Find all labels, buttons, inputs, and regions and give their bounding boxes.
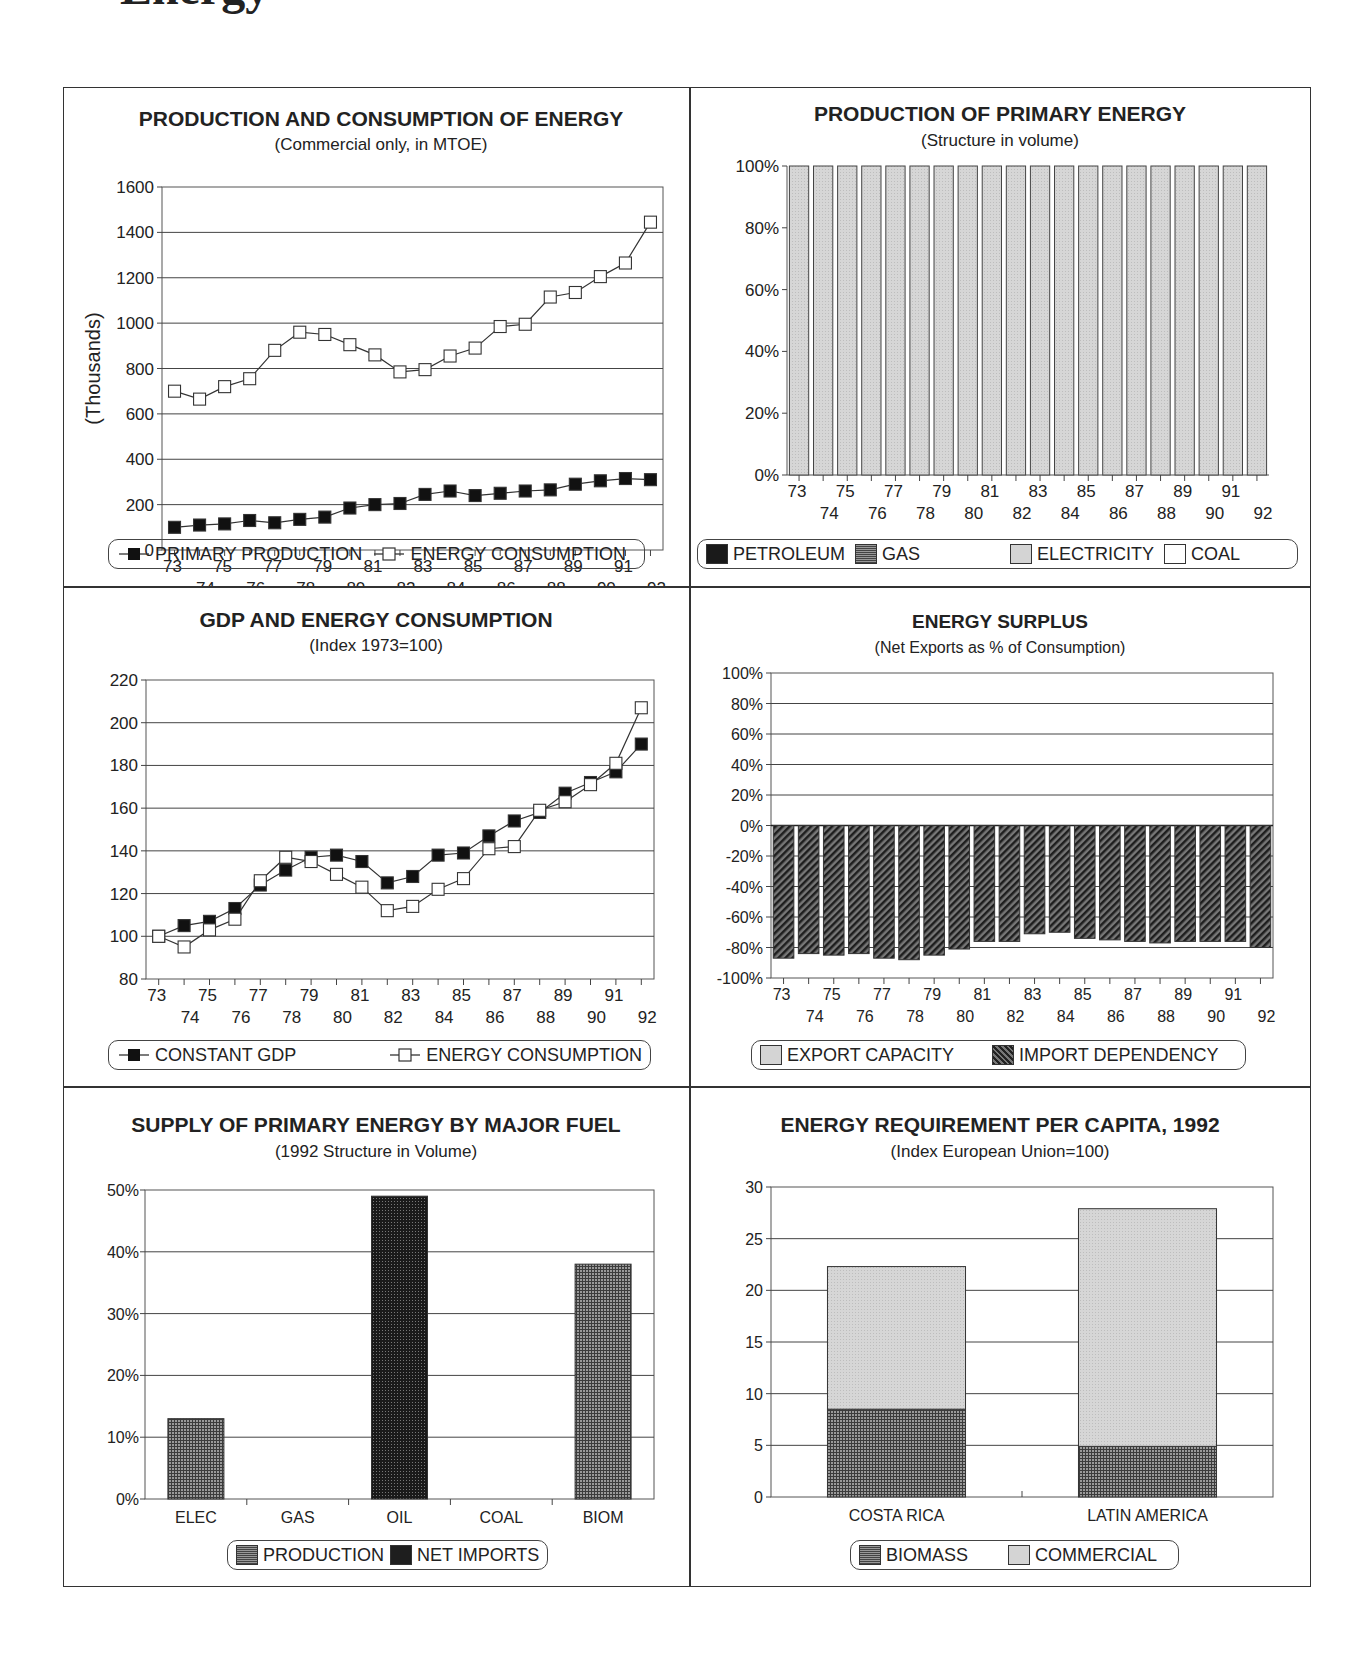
chart-production-structure: PRODUCTION OF PRIMARY ENERGY (Structure …	[689, 87, 1311, 586]
svg-text:74: 74	[196, 579, 215, 586]
svg-text:92: 92	[1253, 504, 1272, 523]
svg-text:75: 75	[823, 986, 841, 1003]
svg-text:87: 87	[1124, 986, 1142, 1003]
svg-text:5: 5	[754, 1437, 763, 1454]
stacked-bar-plot: 0%20%40%60%80%100%7374757677787980818283…	[689, 87, 1311, 586]
svg-text:76: 76	[856, 1008, 874, 1025]
filled-square-marker-icon	[117, 544, 151, 564]
svg-text:160: 160	[110, 799, 138, 818]
chart-production-consumption: PRODUCTION AND CONSUMPTION OF ENERGY (Co…	[63, 87, 689, 586]
svg-text:88: 88	[547, 579, 566, 586]
bar-chart-plot: -100%-80%-60%-40%-20%0%20%40%60%80%100%7…	[689, 586, 1311, 1086]
chart-legend: BIOMASS COMMERCIAL	[850, 1540, 1179, 1570]
svg-text:80: 80	[333, 1008, 352, 1027]
svg-text:20%: 20%	[745, 404, 779, 423]
svg-text:40%: 40%	[107, 1244, 139, 1261]
svg-text:90: 90	[597, 579, 616, 586]
svg-text:COAL: COAL	[480, 1509, 524, 1526]
svg-text:92: 92	[638, 1008, 657, 1027]
svg-text:40%: 40%	[745, 342, 779, 361]
svg-text:10%: 10%	[107, 1429, 139, 1446]
open-square-marker-icon	[372, 544, 406, 564]
legend-item-primary-production: PRIMARY PRODUCTION	[117, 544, 362, 565]
svg-text:84: 84	[435, 1008, 454, 1027]
svg-text:75: 75	[836, 482, 855, 501]
chart-legend: EXPORT CAPACITY IMPORT DEPENDENCY	[751, 1040, 1246, 1070]
legend-item-energy-consumption: ENERGY CONSUMPTION	[388, 1045, 642, 1066]
svg-text:10: 10	[745, 1386, 763, 1403]
svg-text:89: 89	[1174, 986, 1192, 1003]
svg-text:74: 74	[806, 1008, 824, 1025]
gas-swatch	[855, 544, 877, 564]
svg-text:87: 87	[1125, 482, 1144, 501]
svg-text:92: 92	[1258, 1008, 1276, 1025]
svg-text:90: 90	[587, 1008, 606, 1027]
svg-text:20%: 20%	[731, 787, 763, 804]
svg-text:140: 140	[110, 842, 138, 861]
svg-text:88: 88	[1157, 1008, 1175, 1025]
svg-text:BIOM: BIOM	[583, 1509, 624, 1526]
svg-text:180: 180	[110, 756, 138, 775]
svg-text:87: 87	[503, 986, 522, 1005]
chart-legend: PRIMARY PRODUCTION ENERGY CONSUMPTION	[108, 539, 645, 569]
svg-text:76: 76	[231, 1008, 250, 1027]
chart-legend: PRODUCTION NET IMPORTS	[227, 1540, 548, 1570]
chart-legend: CONSTANT GDP ENERGY CONSUMPTION	[108, 1040, 651, 1070]
svg-text:91: 91	[604, 986, 623, 1005]
svg-text:40%: 40%	[731, 757, 763, 774]
svg-text:100: 100	[110, 927, 138, 946]
svg-text:400: 400	[126, 450, 154, 469]
svg-text:80%: 80%	[731, 696, 763, 713]
svg-text:89: 89	[1173, 482, 1192, 501]
svg-text:82: 82	[397, 579, 416, 586]
svg-text:76: 76	[868, 504, 887, 523]
legend-item-petroleum: PETROLEUM	[706, 544, 845, 565]
svg-text:90: 90	[1205, 504, 1224, 523]
svg-text:79: 79	[932, 482, 951, 501]
svg-text:73: 73	[147, 986, 166, 1005]
filled-square-marker-icon	[117, 1045, 151, 1065]
svg-text:81: 81	[350, 986, 369, 1005]
svg-text:100%: 100%	[722, 665, 763, 682]
svg-text:79: 79	[300, 986, 319, 1005]
svg-text:74: 74	[181, 1008, 200, 1027]
export-capacity-swatch	[760, 1045, 782, 1065]
svg-text:81: 81	[973, 986, 991, 1003]
svg-text:82: 82	[384, 1008, 403, 1027]
svg-text:-80%: -80%	[726, 940, 763, 957]
svg-text:91: 91	[1221, 482, 1240, 501]
chart-legend: PETROLEUM GAS ELECTRICITY COAL	[697, 539, 1298, 569]
svg-text:90: 90	[1207, 1008, 1225, 1025]
electricity-swatch	[1010, 544, 1032, 564]
line-chart-plot: 0200400600800100012001400160073747576777…	[63, 87, 689, 586]
legend-item-commercial: COMMERCIAL	[1008, 1545, 1157, 1566]
svg-text:20: 20	[745, 1282, 763, 1299]
svg-text:120: 120	[110, 885, 138, 904]
page-heading-fragment: Energy	[120, 0, 269, 15]
svg-text:83: 83	[1024, 986, 1042, 1003]
svg-text:84: 84	[447, 579, 466, 586]
svg-text:20%: 20%	[107, 1367, 139, 1384]
svg-text:84: 84	[1057, 1008, 1075, 1025]
svg-text:74: 74	[820, 504, 839, 523]
coal-swatch	[1164, 544, 1186, 564]
legend-item-biomass: BIOMASS	[859, 1545, 968, 1566]
svg-text:800: 800	[126, 360, 154, 379]
svg-text:83: 83	[401, 986, 420, 1005]
legend-item-coal: COAL	[1164, 544, 1240, 565]
svg-text:84: 84	[1061, 504, 1080, 523]
legend-item-electricity: ELECTRICITY	[1010, 544, 1154, 565]
svg-text:OIL: OIL	[387, 1509, 413, 1526]
svg-text:79: 79	[923, 986, 941, 1003]
svg-text:81: 81	[980, 482, 999, 501]
svg-text:60%: 60%	[731, 726, 763, 743]
svg-text:30: 30	[745, 1179, 763, 1196]
svg-text:89: 89	[554, 986, 573, 1005]
line-chart-plot: 8010012014016018020022073747576777879808…	[63, 586, 689, 1086]
legend-item-gas: GAS	[855, 544, 920, 565]
net-imports-swatch	[390, 1545, 412, 1565]
svg-text:100%: 100%	[736, 157, 779, 176]
chart-energy-surplus: ENERGY SURPLUS (Net Exports as % of Cons…	[689, 586, 1311, 1086]
svg-text:1400: 1400	[116, 223, 154, 242]
svg-text:15: 15	[745, 1334, 763, 1351]
